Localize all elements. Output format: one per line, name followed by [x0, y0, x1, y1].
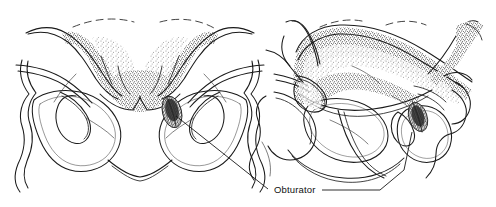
obturator-label: Obturator: [274, 184, 315, 195]
anatomy-figure: Obturator: [0, 0, 496, 207]
pelvis-illustration-svg: Obturator: [0, 0, 496, 207]
